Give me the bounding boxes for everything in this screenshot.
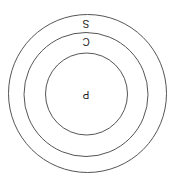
label-c: C xyxy=(82,36,89,47)
nested-circles-diagram: S C P xyxy=(0,0,177,188)
label-p: P xyxy=(82,89,89,100)
label-s: S xyxy=(82,18,89,29)
